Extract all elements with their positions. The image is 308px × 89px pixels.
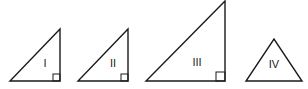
right-angle-mark-3 <box>216 72 225 81</box>
triangles-svg <box>0 0 308 89</box>
triangle-label-3: III <box>192 57 201 68</box>
triangle-label-2: II <box>110 58 116 69</box>
triangle-1 <box>10 29 60 81</box>
right-angle-mark-1 <box>53 74 60 81</box>
triangle-3 <box>146 1 225 81</box>
right-angle-mark-2 <box>121 74 128 81</box>
triangle-diagram: I II III IV <box>0 0 308 89</box>
triangle-label-4: IV <box>269 59 279 70</box>
triangle-2 <box>78 29 128 81</box>
triangle-label-1: I <box>43 58 46 69</box>
